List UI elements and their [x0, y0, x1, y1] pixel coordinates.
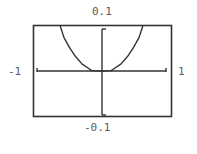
plot-area	[0, 0, 197, 154]
y-axis	[102, 29, 106, 115]
